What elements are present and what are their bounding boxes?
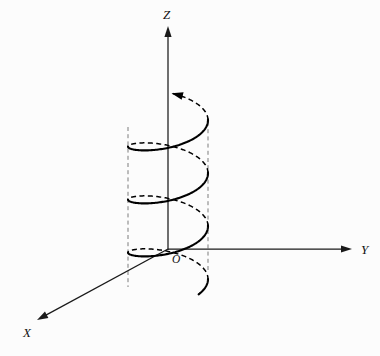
z-axis-label: Z bbox=[163, 7, 171, 22]
coordinate-axes bbox=[37, 26, 352, 320]
y-axis-label: Y bbox=[361, 242, 370, 257]
helix-figure: Z Y X O bbox=[0, 0, 380, 356]
y-axis-arrowhead bbox=[341, 245, 352, 252]
helix-hidden-arc bbox=[172, 93, 208, 120]
helix-visible-arc bbox=[199, 279, 208, 294]
helix-diagram-svg: Z Y X O bbox=[0, 0, 380, 356]
helix-direction-arrowhead bbox=[171, 92, 183, 100]
x-axis-arrowhead bbox=[37, 312, 48, 320]
x-axis-line bbox=[43, 249, 168, 317]
x-axis-label: X bbox=[22, 325, 32, 340]
z-axis-arrowhead bbox=[164, 26, 171, 37]
origin-label: O bbox=[172, 253, 181, 265]
